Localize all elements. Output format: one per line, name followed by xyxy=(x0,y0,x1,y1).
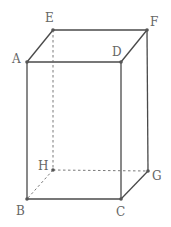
edge-df xyxy=(121,30,147,62)
edge-hg-hidden xyxy=(53,170,148,171)
vertex-label-d: D xyxy=(112,45,122,59)
vertex-label-e: E xyxy=(45,11,54,25)
vertex-c xyxy=(119,197,123,201)
edge-hb-hidden xyxy=(27,170,53,199)
vertex-label-f: F xyxy=(150,15,158,29)
vertex-f xyxy=(145,28,149,32)
edge-fg xyxy=(147,30,148,171)
vertices-group xyxy=(25,28,150,201)
vertex-e xyxy=(51,28,55,32)
vertex-d xyxy=(119,60,123,64)
edges-group xyxy=(27,30,148,199)
vertex-g xyxy=(146,169,150,173)
vertex-label-g: G xyxy=(152,169,162,183)
rectangular-prism-diagram: ABCDEFGH xyxy=(0,0,171,227)
labels-group: ABCDEFGH xyxy=(11,11,162,219)
vertex-h xyxy=(51,168,55,172)
vertex-b xyxy=(25,197,29,201)
vertex-a xyxy=(25,60,29,64)
edge-cg xyxy=(121,171,148,199)
vertex-label-b: B xyxy=(16,204,25,218)
vertex-label-c: C xyxy=(116,205,125,219)
vertex-label-h: H xyxy=(38,159,48,173)
edge-ae xyxy=(27,30,53,62)
vertex-label-a: A xyxy=(11,52,21,66)
